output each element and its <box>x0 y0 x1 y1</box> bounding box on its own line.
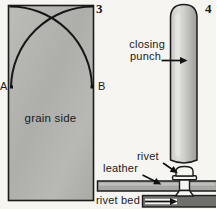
diagram-drawing <box>0 0 216 209</box>
grain-side-label: grain side <box>8 112 93 124</box>
point-a-label: A <box>0 80 8 92</box>
closing-punch-highlight <box>175 14 180 156</box>
leather-strip-shape <box>98 181 217 191</box>
leather-highlight <box>99 183 215 186</box>
rivet-label: rivet <box>137 150 159 162</box>
rivet-cap-dome <box>176 167 193 177</box>
figure-3-number: 3 <box>96 2 103 15</box>
rivet-base-flare <box>176 191 194 197</box>
closing-punch-label-line1: closing <box>100 38 165 50</box>
point-a-dot <box>10 86 13 89</box>
strap-rectangle <box>9 6 94 201</box>
rivet-stem <box>180 180 190 191</box>
leather-label: leather <box>103 162 138 174</box>
point-b-label: B <box>98 80 106 92</box>
closing-punch-shape <box>171 5 198 164</box>
figure-4-number: 4 <box>205 2 212 15</box>
closing-punch-label-line2: punch <box>100 50 161 62</box>
rivet-arrow-icon <box>163 163 173 170</box>
rivet-bed-label: rivet bed <box>96 194 140 206</box>
point-b-dot <box>91 86 94 89</box>
diagram-page: 3 A B grain side 4 closing punch rivet l… <box>0 0 216 209</box>
